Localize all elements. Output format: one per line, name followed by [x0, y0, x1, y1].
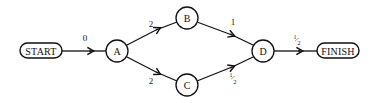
edge-weight-a-b: 2 — [149, 19, 154, 29]
node-start: START — [20, 43, 62, 58]
node-d: D — [252, 40, 274, 62]
edge-a-c: 2 — [127, 57, 177, 86]
node-finish-label: FINISH — [321, 46, 354, 57]
node-finish: FINISH — [317, 43, 359, 58]
edge-weight-b-d: 1 — [231, 17, 236, 27]
edge-weight-d-finish: 1 2 — [294, 34, 301, 46]
node-d-label: D — [259, 46, 266, 57]
node-c: C — [176, 74, 198, 96]
edge-c-d: 1 2 — [197, 57, 253, 85]
svg-text:1: 1 — [230, 72, 233, 78]
edge-a-b: 2 — [127, 19, 177, 45]
svg-text:2: 2 — [234, 79, 237, 85]
node-start-label: START — [25, 46, 56, 57]
node-b: B — [176, 7, 198, 29]
edge-weight-start-a: 0 — [83, 33, 88, 43]
edge-weight-c-d: 1 2 — [230, 72, 237, 85]
activity-network-diagram: 0 2 2 1 1 2 1 2 — [0, 0, 379, 103]
node-a-label: A — [113, 46, 121, 57]
edge-weight-a-c: 2 — [149, 76, 154, 86]
node-b-label: B — [184, 13, 191, 24]
node-c-label: C — [184, 80, 191, 91]
edge-d-finish: 1 2 — [274, 34, 317, 51]
svg-text:2: 2 — [298, 40, 301, 46]
edge-b-d: 1 — [197, 17, 253, 45]
svg-text:1: 1 — [294, 34, 297, 40]
node-a: A — [106, 40, 128, 62]
edge-start-a: 0 — [62, 33, 106, 51]
